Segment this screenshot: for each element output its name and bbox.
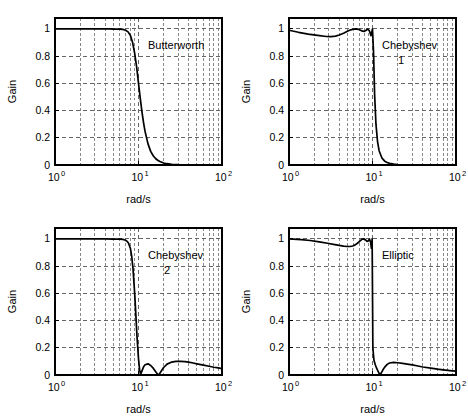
x-tick-exponent: 0: [61, 379, 65, 388]
y-tick-label: 0.2: [269, 131, 284, 143]
y-axis-label: Gain: [6, 290, 18, 313]
x-tick-exponent: 2: [462, 379, 466, 388]
x-tick-exponent: 1: [379, 379, 383, 388]
y-tick-label: 0.8: [35, 260, 50, 272]
y-tick-label: 0.2: [269, 341, 284, 353]
x-tick-label: 10: [449, 381, 461, 393]
y-tick-label: 0.4: [269, 104, 284, 116]
x-tick-exponent: 2: [462, 169, 466, 178]
x-tick-label: 10: [366, 171, 378, 183]
y-tick-label: 0.2: [35, 341, 50, 353]
y-tick-label: 0: [278, 369, 284, 381]
y-axis-label: Gain: [6, 80, 18, 103]
curve-annotation: Chebyshev: [382, 39, 438, 51]
plot-svg-chebyshev2: 00.20.40.60.81100101102rad/sGainChebyshe…: [0, 210, 234, 419]
x-tick-exponent: 0: [295, 379, 299, 388]
x-axis-label: rad/s: [360, 193, 385, 205]
x-tick-exponent: 1: [379, 169, 383, 178]
y-tick-label: 0.6: [269, 77, 284, 89]
y-tick-label: 0: [44, 159, 50, 171]
curve-annotation: Elliptic: [382, 249, 414, 261]
plot-panel-chebyshev2[interactable]: 00.20.40.60.81100101102rad/sGainChebyshe…: [0, 210, 234, 419]
y-tick-label: 0.6: [35, 77, 50, 89]
y-tick-label: 0: [44, 369, 50, 381]
plot-panel-elliptic[interactable]: 00.20.40.60.81100101102rad/sGainElliptic: [234, 210, 468, 419]
plot-svg-butterworth: 00.20.40.60.81100101102rad/sGainButterwo…: [0, 0, 234, 209]
x-tick-exponent: 1: [145, 379, 149, 388]
x-tick-exponent: 0: [61, 169, 65, 178]
x-axis-label: rad/s: [126, 193, 151, 205]
x-tick-label: 10: [282, 381, 294, 393]
y-axis-label: Gain: [240, 80, 252, 103]
y-tick-label: 0.8: [269, 50, 284, 62]
x-axis-label: rad/s: [126, 403, 151, 415]
plot-svg-chebyshev1: 00.20.40.60.81100101102rad/sGainChebyshe…: [234, 0, 468, 209]
plot-svg-elliptic: 00.20.40.60.81100101102rad/sGainElliptic: [234, 210, 468, 419]
x-tick-exponent: 1: [145, 169, 149, 178]
x-tick-label: 10: [215, 381, 227, 393]
y-tick-label: 0.8: [35, 50, 50, 62]
y-tick-label: 1: [278, 232, 284, 244]
plot-panel-chebyshev1[interactable]: 00.20.40.60.81100101102rad/sGainChebyshe…: [234, 0, 468, 209]
x-tick-exponent: 2: [228, 169, 232, 178]
y-tick-label: 1: [44, 232, 50, 244]
x-tick-exponent: 2: [228, 379, 232, 388]
y-axis-label: Gain: [240, 290, 252, 313]
x-axis-label: rad/s: [360, 403, 385, 415]
y-tick-label: 0.4: [269, 314, 284, 326]
filter-response-figure: 00.20.40.60.81100101102rad/sGainButterwo…: [0, 0, 468, 419]
x-tick-label: 10: [449, 171, 461, 183]
y-tick-label: 0.6: [269, 287, 284, 299]
x-tick-exponent: 0: [295, 169, 299, 178]
x-tick-label: 10: [132, 171, 144, 183]
y-tick-label: 0.2: [35, 131, 50, 143]
x-tick-label: 10: [48, 171, 60, 183]
curve-annotation-subscript: 1: [398, 54, 404, 66]
y-tick-label: 1: [278, 22, 284, 34]
x-tick-label: 10: [48, 381, 60, 393]
x-tick-label: 10: [132, 381, 144, 393]
y-tick-label: 0.4: [35, 104, 50, 116]
plot-panel-butterworth[interactable]: 00.20.40.60.81100101102rad/sGainButterwo…: [0, 0, 234, 209]
curve-annotation-subscript: 2: [164, 264, 170, 276]
y-tick-label: 0.4: [35, 314, 50, 326]
x-axis: 100101102: [282, 371, 466, 393]
curve-annotation: Chebyshev: [148, 249, 204, 261]
curve-annotation: Butterworth: [148, 39, 204, 51]
y-tick-label: 0: [278, 159, 284, 171]
x-tick-label: 10: [366, 381, 378, 393]
x-tick-label: 10: [282, 171, 294, 183]
y-tick-label: 0.6: [35, 287, 50, 299]
y-tick-label: 1: [44, 22, 50, 34]
y-tick-label: 0.8: [269, 260, 284, 272]
x-tick-label: 10: [215, 171, 227, 183]
